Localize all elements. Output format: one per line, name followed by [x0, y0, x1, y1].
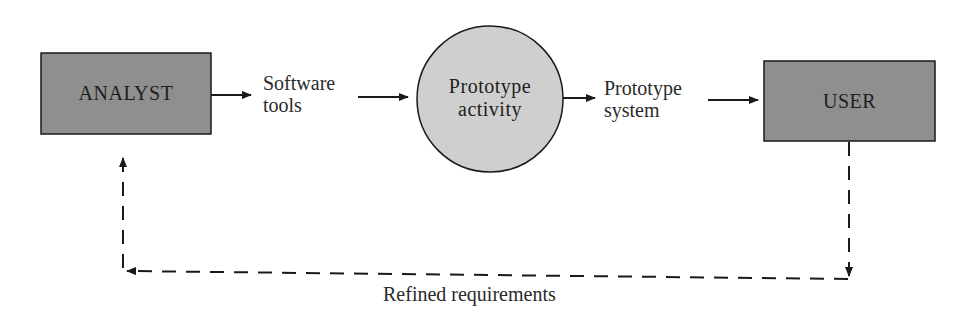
prototype-system-label: Prototype system — [604, 77, 682, 121]
user-label: USER — [764, 61, 935, 141]
prototype-system-line-2: system — [604, 99, 682, 121]
software-tools-line-2: tools — [263, 94, 335, 116]
software-tools-line-1: Software — [263, 72, 335, 94]
prototype-activity-label: Prototype activity — [417, 75, 563, 121]
software-tools-label: Software tools — [263, 72, 335, 116]
diagram-canvas — [0, 0, 953, 324]
analyst-label: ANALYST — [41, 53, 211, 134]
refined-requirements-label: Refined requirements — [383, 283, 556, 305]
prototype-system-line-1: Prototype — [604, 77, 682, 99]
dashed-bottom — [127, 271, 848, 279]
prototype-activity-line-2: activity — [417, 98, 563, 121]
prototype-activity-line-1: Prototype — [417, 75, 563, 98]
